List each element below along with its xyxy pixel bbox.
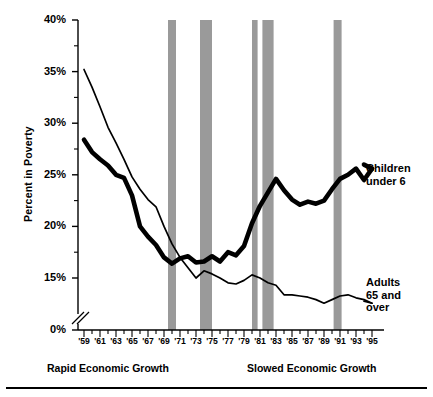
series-callout-adults: Adults 65 and over bbox=[366, 276, 401, 314]
x-tick-label: '95 bbox=[361, 336, 383, 346]
callout-children-line2: under 6 bbox=[366, 175, 411, 188]
y-tick-label: 30% bbox=[20, 116, 66, 128]
y-tick-label: 40% bbox=[20, 13, 66, 25]
poverty-rate-chart: Percent in Poverty 0%15%20%25%30%35%40% … bbox=[0, 0, 433, 397]
recession-bands bbox=[168, 20, 342, 330]
callout-adults-line2: 65 and bbox=[366, 289, 401, 302]
series-callout-children: Children under 6 bbox=[366, 162, 411, 187]
annotation-rapid-growth: Rapid Economic Growth bbox=[47, 362, 169, 374]
chart-series bbox=[84, 70, 372, 304]
callout-children-line1: Children bbox=[366, 162, 411, 175]
y-tick-label: 25% bbox=[20, 168, 66, 180]
callout-adults-line1: Adults bbox=[366, 276, 401, 289]
y-tick-label: 0% bbox=[20, 323, 66, 335]
footer-rule bbox=[6, 387, 427, 389]
y-tick-label: 35% bbox=[20, 65, 66, 77]
callout-adults-line3: over bbox=[366, 301, 401, 314]
annotation-slowed-growth: Slowed Economic Growth bbox=[247, 362, 377, 374]
y-tick-label: 15% bbox=[20, 271, 66, 283]
y-tick-label: 20% bbox=[20, 219, 66, 231]
